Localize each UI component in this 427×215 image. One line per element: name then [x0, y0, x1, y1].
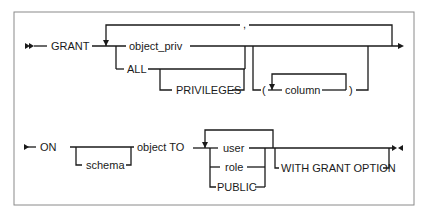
public-label: PUBLIC — [217, 181, 257, 193]
grant-syntax-diagram: GRANT , object_priv ALL PRIVILEGES ( col… — [0, 0, 427, 215]
end-marker-icon — [392, 145, 403, 151]
comma-separator: , — [243, 18, 246, 30]
schema-label: schema — [86, 159, 125, 171]
column-label: column — [285, 84, 320, 96]
role-label: role — [225, 161, 243, 173]
object-to-label: object TO — [137, 141, 185, 153]
loop-arrow-icon — [103, 40, 109, 46]
object-priv-label: object_priv — [129, 40, 183, 52]
user-label: user — [223, 142, 245, 154]
start-double-arrow-icon — [25, 43, 34, 49]
grantee-loop-arrow-icon — [202, 142, 208, 148]
continuation-start-icon — [24, 144, 36, 150]
open-paren: ( — [262, 84, 266, 96]
close-paren: ) — [349, 84, 353, 96]
with-grant-option-label: WITH GRANT OPTION — [281, 162, 396, 174]
keyword-grant: GRANT — [51, 40, 90, 52]
keyword-on: ON — [40, 141, 57, 153]
all-label: ALL — [127, 63, 147, 75]
privileges-label: PRIVILEGES — [176, 84, 241, 96]
column-loop-arrow-icon — [269, 84, 275, 90]
continue-arrow-icon — [398, 43, 404, 49]
